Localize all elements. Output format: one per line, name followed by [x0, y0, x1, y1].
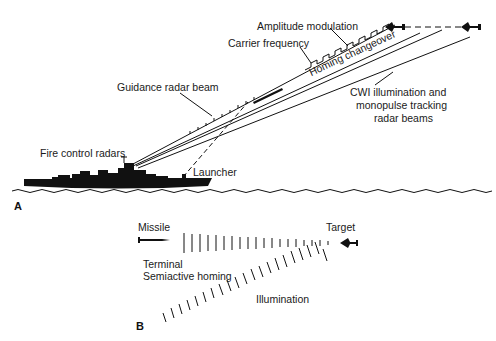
illumination-waves [163, 242, 327, 322]
aircraft-icon-2 [461, 22, 481, 32]
label-carrier-frequency: Carrier frequency [228, 37, 309, 49]
label-terminal: Terminal [143, 258, 183, 270]
cwi-beam-upper [136, 30, 442, 166]
missile-in-flight-icon [253, 88, 283, 104]
label-guidance-radar-beam: Guidance radar beam [117, 81, 219, 93]
ship-icon [24, 163, 212, 189]
label-illumination: Illumination [256, 293, 309, 305]
label-cwi-line3: radar beams [374, 112, 433, 124]
label-fire-control-radars: Fire control radars [40, 147, 125, 159]
label-target: Target [326, 221, 355, 233]
missile-b-icon [138, 237, 170, 243]
label-cwi-line2: monopulse tracking [356, 99, 447, 111]
leader-guidance [180, 93, 212, 116]
label-semiactive-homing: Semiactive homing [143, 270, 232, 282]
leader-carrier [300, 47, 311, 63]
panel-b-letter: B [136, 320, 144, 332]
target-b-icon [340, 238, 358, 248]
label-amplitude-modulation: Amplitude modulation [257, 20, 358, 32]
diagram-canvas [0, 0, 496, 341]
sea-surface [12, 190, 492, 193]
label-missile: Missile [138, 221, 170, 233]
label-launcher: Launcher [193, 166, 237, 178]
homing-waves [184, 233, 328, 253]
label-cwi-line1: CWI illumination and [350, 86, 446, 98]
panel-a-letter: A [14, 200, 22, 212]
